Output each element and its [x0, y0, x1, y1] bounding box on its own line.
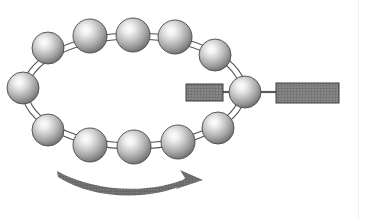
sphere-bottom-2: [73, 128, 107, 162]
block-assembly: [186, 83, 339, 103]
block-inner: [186, 84, 223, 101]
sphere-top-3: [116, 18, 150, 52]
sphere-right: [229, 76, 261, 108]
ring-diagram-svg: [0, 0, 366, 219]
sphere-top-4: [158, 20, 192, 54]
page-edge-line: [358, 0, 359, 219]
sphere-bottom-1: [32, 114, 64, 146]
sphere-bottom-4: [161, 125, 195, 159]
sphere-top-1: [32, 32, 64, 64]
sphere-bottom-3: [117, 130, 151, 164]
arrow-head: [176, 170, 203, 189]
sphere-top-5: [199, 39, 231, 71]
figure-canvas: [0, 0, 366, 219]
sphere-left: [7, 72, 39, 104]
sphere-top-2: [73, 19, 107, 53]
rotation-direction-arrow: [57, 170, 203, 196]
block-outer: [276, 83, 339, 103]
sphere-bottom-5: [202, 112, 234, 144]
arrow-curve-body: [57, 171, 190, 196]
